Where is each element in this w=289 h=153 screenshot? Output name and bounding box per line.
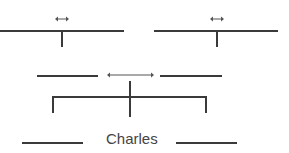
double-arrow-icon — [209, 15, 225, 23]
parent-left-line — [37, 75, 98, 77]
top-left-descent-line — [61, 30, 63, 47]
child-right-drop — [205, 96, 207, 113]
parent-right-line — [160, 75, 222, 77]
double-arrow-icon — [54, 15, 70, 23]
parents-descent-line — [129, 81, 131, 117]
sibling-right-line — [176, 142, 237, 144]
focus-person-label: Charles — [106, 131, 158, 147]
children-bracket-line — [52, 96, 206, 98]
sibling-left-line — [22, 142, 83, 144]
child-left-drop — [52, 96, 54, 113]
top-right-descent-line — [216, 30, 218, 47]
family-tree-diagram: Charles — [0, 0, 289, 153]
double-arrow-icon — [106, 71, 155, 79]
